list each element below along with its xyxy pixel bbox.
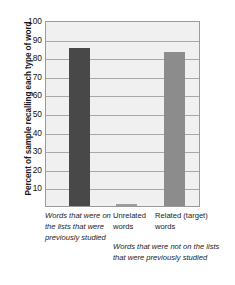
- y-tick-30: 30: [18, 147, 42, 155]
- caption-group-note: Words that were not on the lists that we…: [113, 242, 225, 264]
- y-tick-80: 80: [18, 54, 42, 62]
- y-tick-20: 20: [18, 166, 42, 174]
- caption-group-3: Related (target) words: [155, 211, 221, 233]
- y-tick-40: 40: [18, 128, 42, 136]
- caption-group-2: Unrelated words: [113, 211, 153, 233]
- y-axis-tick-labels: 100908070605040302010: [18, 21, 42, 207]
- bar-chart-figure: Percent of sample recalling each type of…: [0, 0, 235, 285]
- y-tick-10: 10: [18, 184, 42, 192]
- bar-1: [69, 48, 90, 206]
- y-tick-90: 90: [18, 35, 42, 43]
- chart-caption: Words that were on the lists that were p…: [45, 211, 235, 285]
- caption-group-1: Words that were on the lists that were p…: [45, 211, 111, 243]
- y-tick-100: 100: [18, 17, 42, 25]
- y-tick-60: 60: [18, 91, 42, 99]
- y-tick-50: 50: [18, 110, 42, 118]
- copyright-credit: © Cengage Learning: [177, 126, 183, 216]
- y-tick-70: 70: [18, 73, 42, 81]
- bar-2: [116, 204, 137, 206]
